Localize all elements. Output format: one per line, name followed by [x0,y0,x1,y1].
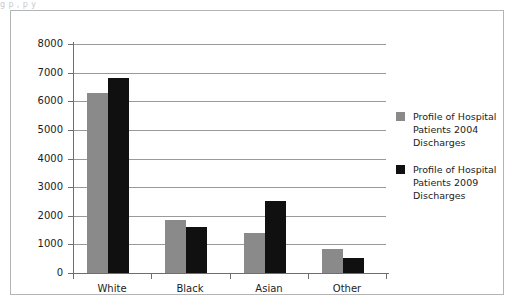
legend-swatch-icon-series2 [396,165,405,174]
y-axis-label-3000: 3000 [21,182,63,192]
legend-label-series1-line1: Profile of Hospital [413,110,508,123]
x-axis-tick-divider-2 [230,273,231,279]
chart-page: g p , p y 010002000300040005000600070008… [0,0,518,307]
x-axis-label-white: White [77,283,147,294]
bar-white-series2[interactable] [108,78,129,273]
legend-item-series2[interactable]: Profile of HospitalPatients 2009Discharg… [396,163,508,202]
bar-black-series2[interactable] [186,227,207,273]
bar-black-series1[interactable] [165,220,186,273]
bar-asian-series1[interactable] [244,233,265,273]
legend-label-series2-line1: Profile of Hospital [413,163,508,176]
y-axis-label-1000: 1000 [21,239,63,249]
y-axis-label-0: 0 [21,268,63,278]
x-axis-label-black: Black [155,283,225,294]
chart-legend: Profile of HospitalPatients 2004Discharg… [396,110,508,216]
y-axis-label-7000: 7000 [21,68,63,78]
bar-other-series2[interactable] [343,258,364,273]
y-axis-label-6000: 6000 [21,96,63,106]
y-axis-label-8000: 8000 [21,39,63,49]
legend-swatch-icon-series1 [396,112,405,121]
y-axis-label-2000: 2000 [21,211,63,221]
x-axis-tick-edge-0 [73,273,74,279]
top-caption-fragment: g p , p y [0,0,518,9]
chart-frame: 010002000300040005000600070008000 WhiteB… [10,10,504,295]
gridline-8000 [73,44,386,45]
y-axis-line [73,42,74,275]
legend-item-series1[interactable]: Profile of HospitalPatients 2004Discharg… [396,110,508,149]
y-axis-label-5000: 5000 [21,125,63,135]
y-axis-label-4000: 4000 [21,154,63,164]
legend-label-series2-line2: Patients 2009 [413,176,508,189]
x-axis-tick-edge-1 [386,273,387,279]
bar-other-series1[interactable] [322,249,343,273]
bar-white-series1[interactable] [87,93,108,273]
legend-label-series2-line3: Discharges [413,189,508,202]
legend-label-series1-line3: Discharges [413,136,508,149]
bar-asian-series2[interactable] [265,201,286,273]
legend-label-series1-line2: Patients 2004 [413,123,508,136]
gridline-7000 [73,73,386,74]
x-axis-line [73,273,389,274]
x-axis-label-other: Other [312,283,382,294]
x-axis-tick-divider-3 [308,273,309,279]
x-axis-label-asian: Asian [234,283,304,294]
x-axis-tick-divider-1 [151,273,152,279]
